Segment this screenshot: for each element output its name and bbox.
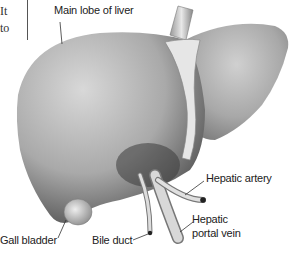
label-hepatic-portal-vein-line2: portal vein [192, 227, 241, 239]
label-hepatic-artery: Hepatic artery [206, 172, 272, 184]
label-hepatic-portal-vein-line1: Hepatic [192, 213, 228, 225]
leader-bile-duct [133, 234, 148, 240]
leader-main-lobe [60, 22, 62, 44]
label-bile-duct: Bile duct [92, 234, 132, 246]
leader-hepatic-artery [185, 181, 204, 195]
label-gall-bladder: Gall bladder [0, 234, 57, 246]
porta-hepatis [116, 143, 180, 187]
gall-bladder [64, 199, 92, 225]
liver-illustration [0, 0, 294, 256]
inferior-vena-cava [170, 6, 193, 40]
label-main-lobe-of-liver: Main lobe of liver [54, 4, 134, 16]
